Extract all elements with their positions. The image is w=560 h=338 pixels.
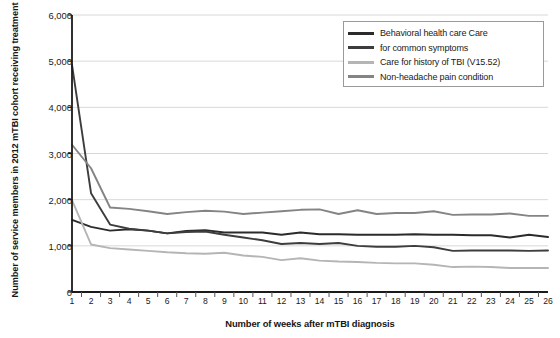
- legend-item: Non-headache pain condition: [348, 70, 538, 85]
- legend-item-label: Behavioral health care Care: [380, 28, 488, 38]
- x-axis-title: Number of weeks after mTBI diagnosis: [60, 318, 560, 329]
- chart-container: Number of service members in 2012 mTBI c…: [0, 0, 560, 338]
- series-line-1: [72, 65, 548, 251]
- series-line-0: [72, 220, 548, 238]
- chart-legend: Behavioral health care Carefor common sy…: [343, 21, 544, 87]
- legend-item: for common symptoms: [348, 41, 538, 56]
- legend-item-label: Non-headache pain condition: [380, 72, 493, 82]
- legend-swatch-icon: [348, 61, 374, 64]
- legend-item-label: Care for history of TBI (V15.52): [380, 57, 500, 67]
- x-tick-label: 26: [537, 296, 559, 306]
- legend-swatch-icon: [348, 75, 374, 78]
- legend-swatch-icon: [348, 32, 374, 35]
- series-line-3: [72, 145, 548, 216]
- legend-item-label: for common symptoms: [380, 43, 468, 53]
- legend-item: Behavioral health care Care: [348, 26, 538, 41]
- legend-swatch-icon: [348, 46, 374, 49]
- legend-item: Care for history of TBI (V15.52): [348, 55, 538, 70]
